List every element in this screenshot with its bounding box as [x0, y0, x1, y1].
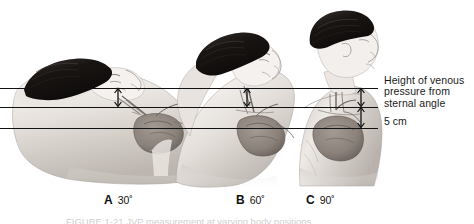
- panel-letter-b: B: [236, 193, 245, 207]
- panel-label-b: B60˚: [236, 193, 265, 207]
- panel-letter-a: A: [104, 193, 113, 207]
- jvp-measurement-figure: Height of venous pressure from sternal a…: [0, 0, 474, 224]
- panel-angle-b: 60˚: [250, 194, 265, 206]
- panel-angle-c: 90˚: [320, 194, 335, 206]
- sternal-angle-line: [0, 107, 378, 108]
- panel-a-illustration: [13, 58, 204, 186]
- venous-pressure-annotation-line-3: sternal angle: [384, 98, 464, 109]
- right-atrium-line: [0, 128, 378, 129]
- panel-c-illustration: [298, 10, 382, 190]
- panel-angle-a: 30˚: [118, 194, 133, 206]
- panel-letter-c: C: [306, 193, 315, 207]
- panel-label-a: A30˚: [104, 193, 133, 207]
- figure-caption: FIGURE 1-21 JVP measurement at varying b…: [66, 216, 311, 224]
- five-cm-annotation: 5 cm: [384, 115, 407, 127]
- panel-label-c: C90˚: [306, 193, 335, 207]
- venous-pressure-level-line: [0, 88, 378, 89]
- venous-pressure-annotation: Height of venous pressure from sternal a…: [384, 75, 464, 109]
- anatomical-illustrations: [0, 0, 474, 224]
